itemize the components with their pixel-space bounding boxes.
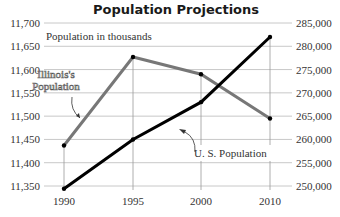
data-point	[199, 72, 203, 76]
right-tick-label: 265,000	[296, 110, 332, 122]
data-point	[62, 187, 66, 191]
chart-subtitle: Population in thousands	[46, 30, 152, 42]
data-point	[199, 100, 203, 104]
left-axis-ticks: 11,35011,40011,45011,50011,55011,60011,6…	[10, 17, 40, 192]
x-tick-label: 2000	[190, 195, 213, 207]
us-arrowhead-icon	[179, 129, 186, 134]
x-tick-label: 2010	[259, 195, 282, 207]
chart-title: Population Projections	[93, 2, 259, 17]
left-tick-label: 11,600	[10, 64, 40, 76]
left-tick-label: 11,700	[10, 17, 40, 29]
left-tick-label: 11,500	[10, 110, 40, 122]
data-point	[62, 143, 66, 147]
right-tick-label: 260,000	[296, 133, 332, 145]
series-line	[64, 37, 270, 189]
left-tick-label: 11,650	[10, 40, 40, 52]
us-population-label: U. S. Population	[194, 147, 267, 159]
population-projections-chart: Population Projections 11,35011,40011,45…	[0, 0, 340, 217]
right-tick-label: 275,000	[296, 64, 332, 76]
data-point	[131, 55, 135, 59]
right-axis-ticks: 250,000255,000260,000265,000270,000275,0…	[296, 17, 332, 192]
data-point	[268, 35, 272, 39]
x-axis-ticks: 1990199520002010	[53, 195, 282, 207]
right-tick-label: 250,000	[296, 180, 332, 192]
right-tick-label: 280,000	[296, 40, 332, 52]
left-tick-label: 11,450	[10, 133, 40, 145]
left-tick-label: 11,400	[10, 157, 40, 169]
gridlines	[44, 23, 292, 186]
left-tick-label: 11,350	[10, 180, 40, 192]
right-tick-label: 270,000	[296, 87, 332, 99]
data-point	[268, 116, 272, 120]
series-lines	[62, 35, 272, 191]
right-tick-label: 255,000	[296, 157, 332, 169]
x-tick-label: 1990	[53, 195, 76, 207]
illinois-arrowhead-icon	[76, 113, 80, 118]
right-tick-label: 285,000	[296, 17, 332, 29]
data-point	[131, 137, 135, 141]
illinois-label-line2: Population	[32, 80, 80, 92]
illinois-label-line1: Illinois's	[37, 68, 74, 80]
x-tick-label: 1995	[122, 195, 145, 207]
series-line	[64, 57, 270, 145]
